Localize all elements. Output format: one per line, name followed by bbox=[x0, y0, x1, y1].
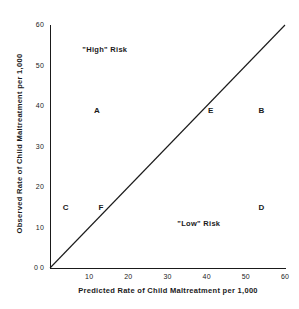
data-point-label-c: C bbox=[63, 203, 69, 212]
y-tick-label-30: 30 bbox=[24, 143, 44, 150]
identity-reference-line bbox=[50, 25, 285, 268]
y-tick-label-50: 50 bbox=[24, 62, 44, 69]
x-tick-label-10: 10 bbox=[79, 273, 99, 280]
scatter-plot-figure: ABCDEF"High" Risk"Low" Risk 0 10 20 30 4… bbox=[0, 0, 299, 309]
x-tick-label-40: 40 bbox=[197, 273, 217, 280]
x-axis-line bbox=[50, 268, 286, 269]
y-axis-title: Observed Rate of Child Maltreatment per … bbox=[15, 19, 24, 269]
y-tick-label-60: 60 bbox=[24, 21, 44, 28]
y-tick-label-10: 10 bbox=[24, 224, 44, 231]
data-point-label-b: B bbox=[259, 106, 265, 115]
plot-area: ABCDEF"High" Risk"Low" Risk bbox=[50, 25, 285, 268]
x-tick-label-0: 0 bbox=[26, 264, 46, 271]
data-point-label-f: F bbox=[98, 203, 103, 212]
x-tick-label-20: 20 bbox=[118, 273, 138, 280]
data-point-label-a: A bbox=[94, 106, 100, 115]
region-annotation-high-risk: "High" Risk bbox=[82, 45, 127, 54]
x-tick-label-60: 60 bbox=[275, 273, 295, 280]
data-point-label-e: E bbox=[208, 106, 213, 115]
y-tick-label-20: 20 bbox=[24, 183, 44, 190]
x-axis-title: Predicted Rate of Child Maltreatment per… bbox=[50, 286, 286, 295]
x-tick-label-30: 30 bbox=[158, 273, 178, 280]
data-point-label-d: D bbox=[259, 203, 265, 212]
x-tick-label-50: 50 bbox=[236, 273, 256, 280]
y-tick-label-40: 40 bbox=[24, 102, 44, 109]
region-annotation-low-risk: "Low" Risk bbox=[177, 219, 220, 228]
